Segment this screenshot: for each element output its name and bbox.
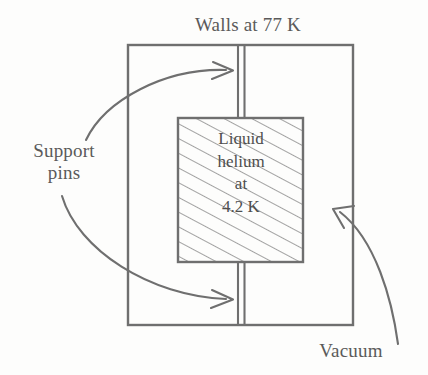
support-pin-lower — [238, 261, 245, 325]
label-walls-temperature: Walls at 77 K — [172, 14, 324, 36]
support-pin-upper — [238, 45, 245, 119]
label-vacuum: Vacuum — [296, 340, 406, 362]
leader-arrow-vacuum — [333, 206, 398, 344]
thermos-cross-section-diagram: Walls at 77 K Support pins Vacuum Liquid… — [0, 0, 428, 375]
inner-vessel-contents-label: Liquid helium at 4.2 K — [178, 128, 304, 218]
label-support-pins: Support pins — [8, 140, 120, 185]
